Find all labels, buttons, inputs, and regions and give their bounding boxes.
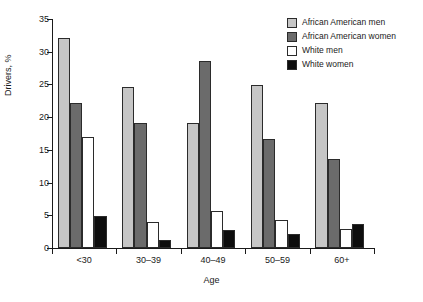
x-axis-category-label: 40–49 <box>200 256 225 265</box>
legend-swatch-icon <box>287 18 297 28</box>
y-axis-title: Drivers, % <box>4 54 13 96</box>
legend-label: African American men <box>302 18 385 27</box>
x-axis-tick-mark <box>116 249 117 254</box>
legend-item: African American men <box>287 16 421 29</box>
x-axis-category-label: 50–59 <box>265 256 290 265</box>
bar <box>159 240 171 249</box>
bar <box>82 137 94 248</box>
x-axis-tick-mark <box>310 249 311 254</box>
legend-swatch-icon <box>287 46 297 56</box>
y-axis-tick-label: 0 <box>44 244 49 253</box>
chart-legend: African American menAfrican American wom… <box>287 16 421 72</box>
bar <box>223 230 235 248</box>
bar <box>315 103 327 248</box>
legend-item: African American women <box>287 30 421 43</box>
x-axis-category-label: <30 <box>77 256 92 265</box>
bar <box>263 139 275 248</box>
legend-swatch-icon <box>287 32 297 42</box>
y-axis-tick-label: 35 <box>39 15 49 24</box>
legend-swatch-icon <box>287 60 297 70</box>
x-axis-tick-mark <box>374 249 375 254</box>
y-axis-tick-label: 20 <box>39 113 49 122</box>
y-axis-tick-label: 5 <box>44 211 49 220</box>
bar <box>352 224 364 248</box>
legend-item: White women <box>287 58 421 71</box>
x-axis-tick-mark <box>52 249 53 254</box>
legend-label: White men <box>302 46 343 55</box>
x-axis-category-label: 30–39 <box>136 256 161 265</box>
bar <box>199 61 211 248</box>
y-axis-tick-label: 25 <box>39 80 49 89</box>
x-axis-line <box>52 248 375 249</box>
bar <box>340 229 352 248</box>
bar-chart: Drivers, % 05101520253035 Age African Am… <box>0 0 423 302</box>
bar <box>288 234 300 248</box>
x-axis-category-label: 60+ <box>334 256 349 265</box>
x-axis-tick-mark <box>181 249 182 254</box>
y-axis-tick-label: 15 <box>39 145 49 154</box>
bar <box>275 220 287 248</box>
bar <box>58 38 70 248</box>
bar <box>328 159 340 248</box>
x-axis-tick-mark <box>245 249 246 254</box>
bar <box>147 222 159 248</box>
y-axis-tick-label: 30 <box>39 47 49 56</box>
y-axis-tick-label: 10 <box>39 178 49 187</box>
bar <box>187 123 199 248</box>
legend-label: African American women <box>302 32 396 41</box>
bar <box>211 211 223 248</box>
bar <box>134 123 146 248</box>
legend-item: White men <box>287 44 421 57</box>
bar <box>122 87 134 248</box>
bar <box>94 216 106 248</box>
bar <box>70 103 82 248</box>
x-axis-title: Age <box>0 276 423 285</box>
legend-label: White women <box>302 60 354 69</box>
bar <box>251 85 263 248</box>
